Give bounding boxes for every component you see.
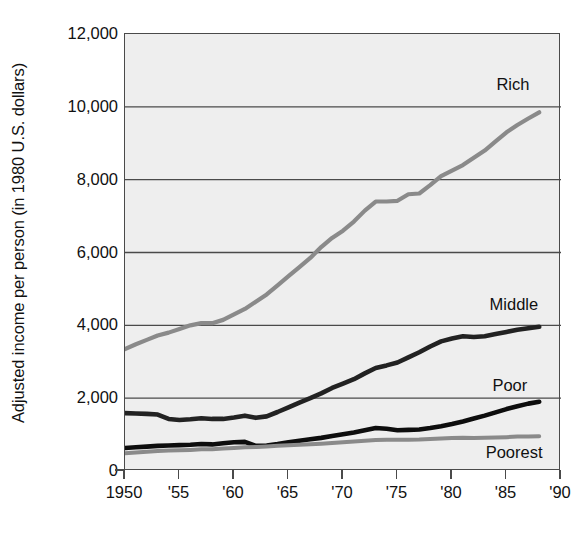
x-tick-mark <box>287 470 289 479</box>
series-label-middle: Middle <box>490 296 539 313</box>
x-tick-mark <box>341 470 343 479</box>
x-axis-tick-marks <box>124 470 560 479</box>
y-tick-label: 10,000 <box>28 98 118 115</box>
x-tick-mark <box>450 470 452 479</box>
x-axis-tick-labels: 1950'55'60'65'70'75'80'85'90 <box>124 484 560 508</box>
income-inequality-line-chart: Adjusted income per person (in 1980 U.S.… <box>0 0 585 533</box>
y-axis-tick-labels: 02,0004,0006,0008,00010,00012,000 <box>28 33 118 470</box>
series-label-rich: Rich <box>496 76 529 93</box>
plot-area <box>124 33 560 470</box>
series-line-rich <box>125 112 539 349</box>
x-tick-label: '85 <box>495 484 517 501</box>
y-tick-label: 6,000 <box>28 243 118 260</box>
y-tick-label: 12,000 <box>28 25 118 42</box>
y-tick-label: 8,000 <box>28 170 118 187</box>
x-tick-label: '65 <box>277 484 299 501</box>
gridlines <box>125 107 561 398</box>
x-tick-mark <box>178 470 180 479</box>
series-label-poorest: Poorest <box>486 444 543 461</box>
x-tick-label: '90 <box>549 484 571 501</box>
y-tick-label: 4,000 <box>28 316 118 333</box>
x-tick-label: '75 <box>386 484 408 501</box>
x-tick-label: 1950 <box>106 484 143 501</box>
series-line-middle <box>125 327 539 420</box>
x-tick-label: '60 <box>222 484 244 501</box>
x-tick-mark <box>232 470 234 479</box>
y-tick-label: 2,000 <box>28 389 118 406</box>
x-tick-label: '80 <box>440 484 462 501</box>
plot-svg <box>125 34 561 471</box>
x-tick-mark <box>505 470 507 479</box>
x-tick-mark <box>396 470 398 479</box>
x-tick-label: '55 <box>168 484 190 501</box>
series-lines <box>125 112 539 453</box>
x-tick-mark <box>559 470 561 479</box>
series-label-poor: Poor <box>492 377 527 394</box>
x-tick-label: '70 <box>331 484 353 501</box>
x-tick-mark <box>123 470 125 479</box>
y-tick-label: 0 <box>28 462 118 479</box>
